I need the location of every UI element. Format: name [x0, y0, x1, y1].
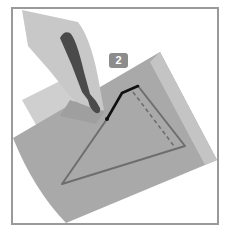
- illustration-frame: 2: [0, 0, 228, 240]
- knife-tip: [105, 117, 109, 121]
- step-number-badge: [109, 53, 128, 68]
- craft-cutting-illustration: [0, 0, 228, 240]
